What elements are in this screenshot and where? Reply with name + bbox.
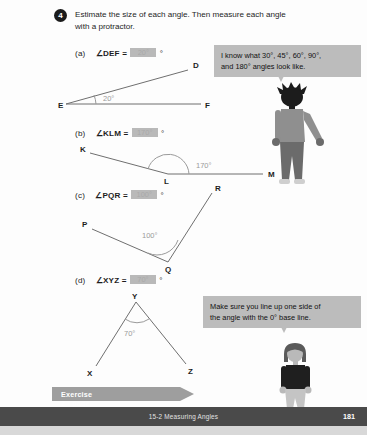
figure-angle-xyz: Y X Z 70° [78,290,208,378]
speech-bubble-bottom: Make sure you line up one side of the an… [203,296,361,328]
speech-bubble-bottom-line1: Make sure you line up one side of [210,301,354,312]
vertex-label-p: P [82,220,88,229]
vertex-label-k: K [80,145,86,154]
angle-measure-xyz: 70° [124,329,135,338]
page-footer: 15-2 Measuring Angles 181 [0,407,367,426]
part-a-row: (a) ∠DEF = 20° ° [75,48,163,58]
problem-prompt: Estimate the size of each angle. Then me… [75,9,295,32]
pointing-arm [303,111,322,142]
part-b-row: (b) ∠KLM = 170° ° [75,128,164,138]
figure-angle-klm: K L M 170° [78,146,278,188]
part-d-answer-blank[interactable]: 70° [130,275,156,284]
part-d-degree-symbol: ° [159,276,162,285]
speech-bubble-top: I know what 30°, 45°, 60°, 90°, and 180°… [214,45,361,77]
part-d-expression: ∠XYZ = [96,276,127,285]
ray-yz [136,302,186,364]
exercise-banner-arrow-icon [180,387,194,401]
pants-shape [285,389,306,409]
speech-bubble-bottom-tail [279,323,289,333]
vertex-label-d: D [193,61,199,70]
footer-page-number: 181 [343,412,355,421]
workbook-page: 4 Estimate the size of each angle. Then … [0,0,367,435]
vertex-label-f: F [205,101,210,110]
footer-chapter-title: 15-2 Measuring Angles [0,413,367,420]
ray-ed [66,70,188,104]
vertex-label-z: Z [188,367,193,376]
top-shape [284,365,307,389]
speech-bubble-top-line1: I know what 30°, 45°, 60°, 90°, [221,50,354,61]
part-a-tag: (a) [75,49,86,58]
character-boy-pointing [270,80,336,190]
angle-measure-def: 20° [103,94,114,103]
part-a-answer-blank[interactable]: 20° [130,48,156,57]
head-shape [281,87,303,107]
footer-shadow [0,426,367,435]
vertex-label-l: L [164,177,169,186]
pants-shape [280,142,304,180]
part-a-expression: ∠DEF = [96,49,127,58]
ray-lk [90,153,168,174]
shirt-shape [279,109,305,142]
part-b-degree-symbol: ° [161,129,164,138]
vertex-label-r: R [215,184,221,193]
part-b-expression: ∠KLM = [96,129,129,138]
part-b-answer-blank[interactable]: 170° [132,128,158,137]
character-girl-standing [277,342,329,414]
pointing-hand [316,138,324,146]
angle-measure-pqr: 100° [142,231,158,240]
part-b-tag: (b) [75,129,86,138]
angle-arc-klm [148,154,189,174]
part-a-degree-symbol: ° [160,49,163,58]
angle-measure-klm: 170° [196,161,212,170]
speech-bubble-bottom-line2: the angle with the 0° base line. [210,312,354,323]
vertex-label-x: X [87,369,93,378]
vertex-label-y: Y [132,292,138,301]
figure-angle-pqr: P Q R 100° [80,186,240,270]
figure-angle-def: E D F 20° [58,62,208,112]
part-d-tag: (d) [75,276,86,285]
vertex-label-e: E [58,101,64,110]
part-d-row: (d) ∠XYZ = 70° ° [75,275,162,285]
angle-arc-def [94,95,96,104]
vertex-label-q: Q [165,265,171,274]
ray-qr [168,193,212,262]
speech-bubble-top-line2: and 180° angles look like. [221,61,354,72]
angle-arc-xyz [125,319,149,323]
problem-number-badge: 4 [54,9,67,22]
